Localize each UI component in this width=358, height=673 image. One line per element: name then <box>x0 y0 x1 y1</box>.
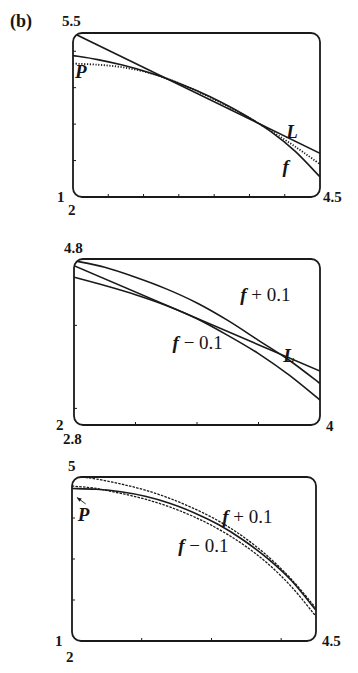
panel-3 <box>72 477 316 641</box>
curve-l <box>73 33 320 153</box>
panel3-curve-label: P <box>78 505 90 524</box>
arrowhead-icon <box>77 497 82 501</box>
panel1-xmin-label: 2 <box>68 203 76 218</box>
panel1-curve-label: L <box>286 122 298 141</box>
part-label: (b) <box>10 12 32 30</box>
panel3-curve-label: f − 0.1 <box>178 536 228 555</box>
panel3-ymax-label: 5 <box>68 459 76 474</box>
panel1-xmax-label: 4.5 <box>323 190 342 205</box>
panel1-curve-label: f <box>282 157 288 176</box>
panel3-xmax-label: 4.5 <box>322 634 341 649</box>
plot-frame <box>72 477 316 641</box>
panel1-ymax-label: 5.5 <box>62 14 81 29</box>
panel3-curve-label: f + 0.1 <box>222 507 272 526</box>
curve-p <box>73 64 320 165</box>
panel1-curve-label: P <box>75 62 87 81</box>
panel2-ymin-label: 2.8 <box>63 432 82 447</box>
panel2-curve-label: f − 0.1 <box>173 333 223 352</box>
panel1-ymin-label: 1 <box>57 190 65 205</box>
panel2-xmax-label: 4 <box>326 419 334 434</box>
panel2-ymax-label: 4.8 <box>64 241 83 256</box>
panel3-ymin-label: 1 <box>55 634 63 649</box>
panel2-curve-label: L <box>283 346 295 365</box>
panel2-curve-label: f + 0.1 <box>240 285 290 304</box>
panel3-xmin-label: 2 <box>66 650 74 665</box>
